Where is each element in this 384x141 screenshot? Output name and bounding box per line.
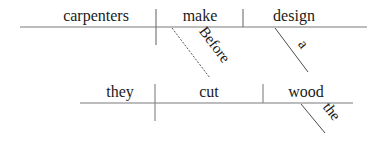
main-verb-word: make [183,8,218,24]
subordinate-object-word: wood [288,84,324,100]
main-subject-word: carpenters [63,8,129,24]
subordinate-verb-word: cut [199,84,219,100]
main-object-word: design [273,8,315,24]
a-modifier-line [275,28,308,72]
subordinate-subject-word: they [106,84,134,100]
sentence-diagram: carpenters make design Before a they cut… [0,0,384,141]
